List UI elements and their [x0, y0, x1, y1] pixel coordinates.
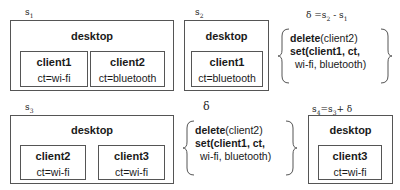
desktop-title: desktop: [185, 30, 268, 42]
state-s1-desktop-box: desktop client1 ct=wi-fi client2 ct=blue…: [10, 20, 174, 91]
desktop-title: desktop: [11, 30, 173, 42]
state-s3-desktop-box: desktop client2 ct=wi-fi client3 ct=wi-f…: [10, 115, 174, 184]
client-ct: ct=bluetooth: [91, 72, 164, 84]
state-s2-desktop-box: desktop client1 ct=bluetooth: [184, 20, 269, 91]
client-box-client1: client1 ct=bluetooth: [191, 51, 263, 87]
left-brace-icon: [278, 28, 290, 84]
op-set: set(client1, ct,: [290, 45, 360, 57]
op-set-args: wi-fi, bluetooth): [290, 58, 366, 71]
state-s4-desktop-box: desktop client3 ct=wi-fi: [308, 115, 393, 184]
client-ct: ct=wi-fi: [21, 166, 85, 178]
client-box-client3: client3 ct=wi-fi: [318, 145, 382, 180]
delta-caption-1: δ =s2 - s1: [306, 10, 348, 22]
op-set: set(client1, ct,: [195, 137, 265, 149]
state-label-s2: s2: [195, 7, 203, 19]
client-ct: ct=wi-fi: [319, 166, 381, 178]
client-name: client2: [91, 56, 164, 68]
client-name: client2: [21, 150, 85, 162]
client-ct: ct=wi-fi: [99, 166, 164, 178]
op-keyword-delete: delete: [195, 124, 225, 136]
client-ct: ct=wi-fi: [21, 72, 87, 84]
right-brace-icon: [285, 120, 297, 176]
desktop-title: desktop: [11, 124, 173, 136]
desktop-title: desktop: [309, 124, 392, 136]
op-set-args: wi-fi, bluetooth): [195, 150, 271, 163]
client-box-client2: client2 ct=wi-fi: [20, 145, 86, 180]
delta-operations-1: delete(client2) set(client1, ct, wi-fi, …: [290, 32, 366, 71]
client-box-client1: client1 ct=wi-fi: [20, 51, 88, 87]
right-brace-icon: [380, 28, 392, 84]
client-name: client1: [192, 56, 262, 68]
client-name: client3: [319, 150, 381, 162]
delta-operations-2: delete(client2) set(client1, ct, wi-fi, …: [195, 124, 271, 163]
client-ct: ct=bluetooth: [192, 72, 262, 84]
client-box-client2: client2 ct=bluetooth: [90, 51, 165, 87]
state-label-s1: s1: [25, 7, 33, 19]
op-keyword-delete: delete: [290, 32, 320, 44]
delta-caption-2: δ: [203, 100, 210, 113]
client-name: client3: [99, 150, 164, 162]
client-box-client3: client3 ct=wi-fi: [98, 145, 165, 180]
client-name: client1: [21, 56, 87, 68]
state-label-s3: s3: [25, 102, 33, 114]
left-brace-icon: [183, 120, 195, 176]
